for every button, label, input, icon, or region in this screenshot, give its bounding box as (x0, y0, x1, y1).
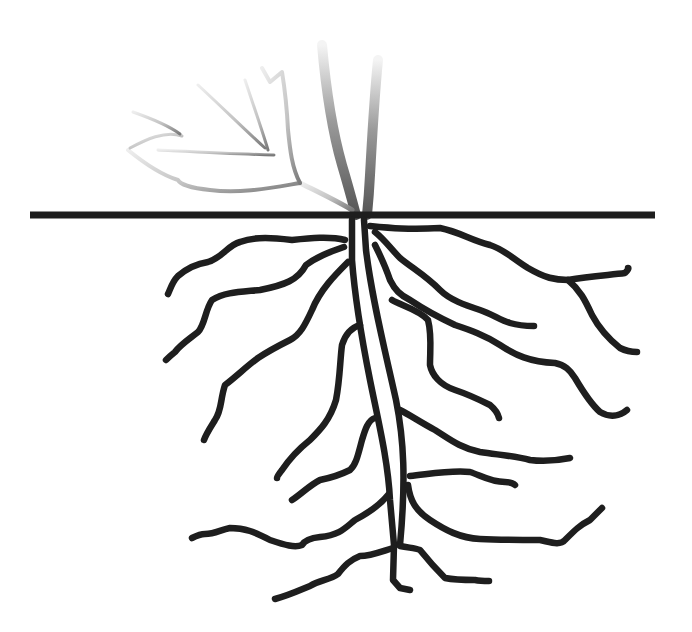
root-left-6 (192, 495, 388, 546)
root-right-7 (408, 485, 602, 543)
root-right-5 (400, 410, 570, 461)
illustration-svg (0, 0, 692, 632)
stem-right (367, 60, 378, 215)
root-right-2 (375, 232, 534, 326)
root-left-5 (292, 418, 375, 500)
root-left-1 (168, 238, 345, 294)
root-right-1b (568, 280, 637, 352)
leaf-vein-3 (198, 85, 265, 148)
root-right-6 (410, 471, 515, 485)
root-right-1 (370, 226, 628, 280)
roots (166, 220, 637, 599)
leaf-vein-1 (158, 150, 274, 155)
root-system-illustration: Line drawing of a plant root system belo… (0, 0, 692, 632)
root-right-8 (400, 546, 489, 581)
leaf-group (128, 68, 352, 210)
stem-left (322, 45, 356, 215)
root-left-4 (277, 325, 360, 478)
leaf-vein-5 (133, 112, 180, 134)
root-left-7 (275, 548, 393, 599)
stem-group (322, 45, 378, 215)
leaf-vein-4 (130, 134, 182, 148)
leaf-outline-upper (262, 68, 300, 183)
